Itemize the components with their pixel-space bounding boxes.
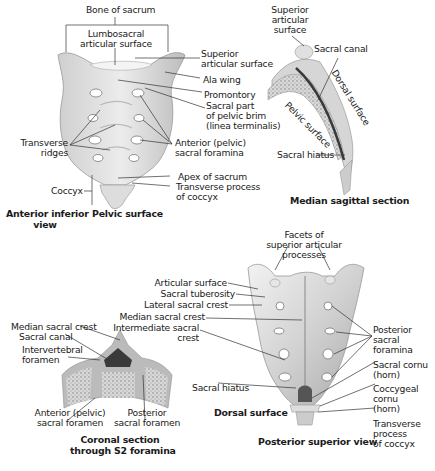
anterior-surface-title: Pelvic surface [92,209,163,220]
label-facets-3: processes [265,250,343,261]
label-intervertebral-2: foramen [22,355,59,366]
label-sacral-tuberosity: Sacral tuberosity [130,289,235,300]
sacrum-illustrations [0,0,435,471]
anterior-view-title-1: Anterior inferior [6,209,84,220]
label-coronal-sacral-canal: Sacral canal [19,332,73,343]
label-anterior-foramina-2: sacral foramina [175,148,244,159]
label-posterior-median-crest: Median sacral crest [100,312,205,323]
label-transverse-ridges-2: ridges [12,148,68,159]
label-intermediate-crest-2: crest [100,333,199,344]
label-ala-wing: Ala wing [203,75,241,86]
label-transverse-process-2: of coccyx [176,192,218,203]
label-posterior-foramina-3: foramina [373,345,413,356]
label-promontory: Promontory [204,90,255,101]
label-coccygeal-cornu-3: (horn) [373,404,400,415]
posterior-surface-title: Dorsal surface [214,408,288,419]
label-lateral-sacral-crest: Lateral sacral crest [120,300,228,311]
label-sacral-cornu-2: (horn) [373,370,400,381]
sagittal-title: Median sagittal section [290,196,409,207]
posterior-sacrum-drawing [248,264,364,425]
label-superior-articular-2: articular surface [201,59,273,70]
anterior-view-title-2: view [6,220,84,231]
coronal-title-2: through S2 foramina [70,446,170,457]
label-coronal-posterior-2: sacral foramen [108,418,186,429]
label-articular-surface: Articular surface [130,278,227,289]
label-bone-of-sacrum: Bone of sacrum [86,5,155,16]
label-sagittal-sacral-canal: Sacral canal [314,44,368,55]
label-sagittal-superior-3: surface [262,25,318,36]
coronal-title-1: Coronal section [70,435,170,446]
label-sagittal-sacral-hiatus: Sacral hiatus [277,150,334,161]
posterior-view-title: Posterior superior view [258,437,377,448]
label-posterior-sacral-hiatus: Sacral hiatus [192,383,249,394]
label-lumbosacral-2: articular surface [70,39,162,50]
label-coccyx: Coccyx [51,186,83,197]
label-sacral-part-3: (linea terminalis) [206,121,280,132]
label-coronal-anterior-2: sacral foramen [30,418,110,429]
label-posterior-transverse-3: of coccyx [373,439,415,450]
